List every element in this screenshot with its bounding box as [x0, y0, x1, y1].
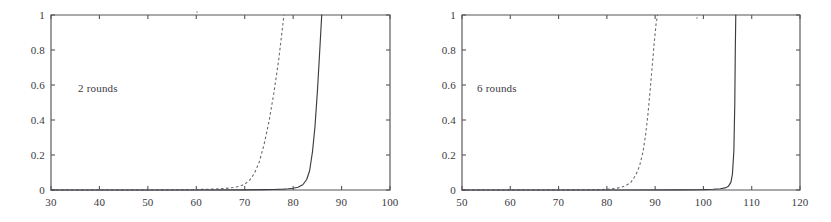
scan-speck [696, 17, 698, 19]
x-axis-tick-label: 110 [743, 196, 760, 208]
x-axis-tick-label: 70 [239, 196, 250, 208]
y-axis-tick-label: 0 [5, 184, 45, 196]
plot-area-2-rounds [0, 0, 416, 222]
x-axis-tick-label: 60 [191, 196, 202, 208]
x-axis-tick-label: 70 [553, 196, 564, 208]
x-axis-tick-label: 100 [695, 196, 712, 208]
y-axis-tick-label: 1 [5, 9, 45, 21]
plot-area-6-rounds [415, 0, 831, 222]
y-axis-tick-label: 0.8 [416, 44, 456, 56]
x-axis-tick-label: 120 [791, 196, 808, 208]
chart-panel-6-rounds: 6 rounds 506070809010011012000.20.40.60.… [415, 0, 831, 222]
x-axis-tick-label: 40 [94, 196, 105, 208]
x-axis-tick-label: 80 [601, 196, 612, 208]
figure-two-panel-cdf-plot: 2 rounds 3040506070809010000.20.40.60.81… [0, 0, 831, 222]
x-axis-tick-label: 80 [287, 196, 298, 208]
y-axis-tick-label: 0.2 [5, 149, 45, 161]
y-axis-tick-label: 0.6 [5, 79, 45, 91]
y-axis-tick-label: 0.2 [416, 149, 456, 161]
panel-annotation-2-rounds: 2 rounds [78, 82, 118, 94]
axis-frame [51, 15, 390, 190]
y-axis-tick-label: 1 [416, 9, 456, 21]
series-solid-curve [51, 15, 322, 190]
x-axis-tick-label: 90 [336, 196, 347, 208]
y-axis-tick-label: 0.8 [5, 44, 45, 56]
x-axis-tick-label: 50 [142, 196, 153, 208]
x-axis-tick-label: 90 [649, 196, 660, 208]
series-dashed-curve [462, 15, 658, 190]
x-axis-tick-label: 100 [381, 196, 398, 208]
axis-frame [462, 15, 800, 190]
series-solid-curve [462, 15, 736, 190]
y-axis-tick-label: 0.6 [416, 79, 456, 91]
series-dashed-curve [51, 15, 284, 190]
y-axis-tick-label: 0.4 [416, 114, 456, 126]
scan-speck [196, 11, 198, 13]
chart-panel-2-rounds: 2 rounds 3040506070809010000.20.40.60.81 [0, 0, 416, 222]
x-axis-tick-label: 50 [456, 196, 467, 208]
x-axis-tick-label: 30 [45, 196, 56, 208]
x-axis-tick-label: 60 [505, 196, 516, 208]
y-axis-tick-label: 0.4 [5, 114, 45, 126]
panel-annotation-6-rounds: 6 rounds [477, 82, 517, 94]
y-axis-tick-label: 0 [416, 184, 456, 196]
